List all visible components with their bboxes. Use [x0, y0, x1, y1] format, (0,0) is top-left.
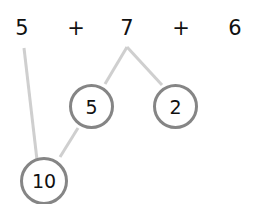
split-node-2-label: 2	[169, 96, 181, 118]
split-node-5-label: 5	[85, 96, 97, 118]
split-node-5: 5	[69, 84, 114, 129]
sum-node-10-label: 10	[32, 170, 56, 192]
line-5-to-10-b	[60, 128, 78, 157]
plus-sign-2: +	[172, 18, 190, 39]
term-7: 7	[120, 18, 133, 39]
term-6: 6	[228, 18, 241, 39]
split-node-2: 2	[153, 84, 198, 129]
line-7-to-5	[105, 47, 127, 84]
term-5: 5	[15, 18, 28, 39]
line-7-to-2	[127, 47, 162, 85]
plus-sign-1: +	[67, 18, 85, 39]
line-5-to-10	[24, 48, 37, 160]
sum-node-10: 10	[20, 157, 68, 204]
